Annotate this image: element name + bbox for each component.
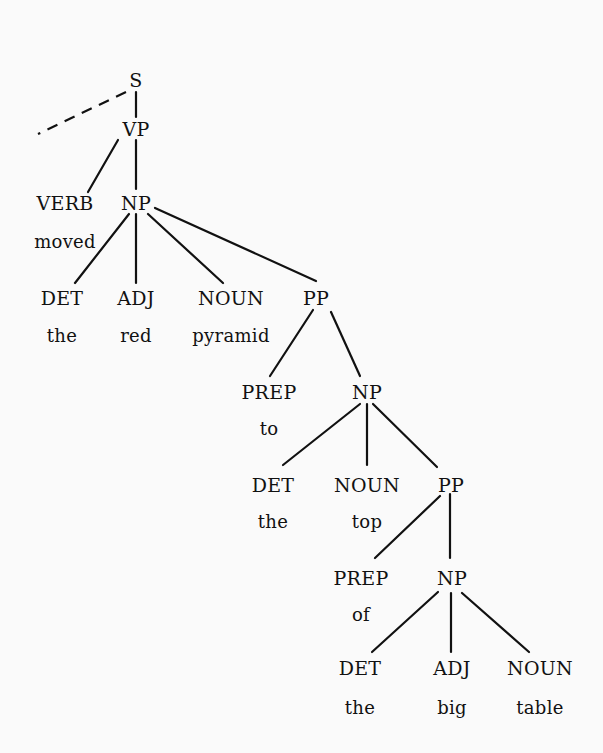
edge-np1-pp1 <box>155 208 316 281</box>
node-np-3: NP <box>437 567 467 589</box>
node-pp-1: PP <box>303 287 329 309</box>
edge-np2-pp2 <box>373 404 437 467</box>
node-noun-1: NOUN <box>198 287 264 309</box>
parse-tree-diagram: S VP VERB moved NP DET the ADJ red NOUN … <box>0 0 603 753</box>
edge-np3-noun3 <box>462 593 529 652</box>
node-prep-2: PREP <box>334 567 389 589</box>
word-moved: moved <box>34 231 96 252</box>
word-pyramid: pyramid <box>192 325 269 346</box>
node-adj-3: ADJ <box>433 657 470 679</box>
tree-edges <box>0 0 603 753</box>
edge-np1-noun1 <box>148 214 223 283</box>
word-the-3: the <box>345 697 375 718</box>
edge-s-elided <box>38 92 126 134</box>
node-noun-2: NOUN <box>334 474 400 496</box>
word-top: top <box>352 511 383 532</box>
node-det-2: DET <box>252 474 295 496</box>
edge-np2-det2 <box>283 404 360 465</box>
node-det-3: DET <box>339 657 382 679</box>
node-det-1: DET <box>41 287 84 309</box>
word-of: of <box>352 604 370 625</box>
word-red: red <box>120 325 152 346</box>
word-to: to <box>260 418 279 439</box>
node-pp-2: PP <box>438 474 464 496</box>
node-s: S <box>129 69 142 91</box>
node-adj-1: ADJ <box>117 287 154 309</box>
word-the-1: the <box>47 325 77 346</box>
node-np-2: NP <box>352 381 382 403</box>
edge-pp1-np2 <box>331 312 360 376</box>
node-np-1: NP <box>121 192 151 214</box>
word-big: big <box>437 697 467 718</box>
node-verb: VERB <box>36 192 93 214</box>
edge-vp-verb <box>88 140 118 192</box>
edge-pp1-prep1 <box>270 310 313 376</box>
edge-pp2-prep2 <box>375 496 440 558</box>
node-vp: VP <box>122 118 149 140</box>
word-table: table <box>516 697 563 718</box>
edge-np3-det3 <box>372 592 438 652</box>
node-prep-1: PREP <box>242 381 297 403</box>
word-the-2: the <box>258 511 288 532</box>
node-noun-3: NOUN <box>507 657 573 679</box>
